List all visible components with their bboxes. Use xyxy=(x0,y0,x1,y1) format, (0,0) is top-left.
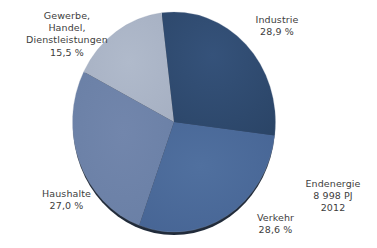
pie-label-industrie: Industrie 28,9 % xyxy=(222,14,332,38)
annotation-title: Endenergie xyxy=(290,178,376,190)
annotation-year: 2012 xyxy=(290,202,376,214)
pie-label-gewerbe-handel-dienstleistungen: Gewerbe, Handel, Dienstleistungen 15,5 % xyxy=(2,10,132,59)
pie-label-gewerbe-percent: 15,5 % xyxy=(2,47,132,59)
pie-label-haushalte-percent: 27,0 % xyxy=(14,200,119,212)
pie-label-verkehr: Verkehr 28,6 % xyxy=(228,212,323,236)
chart-annotation-endenergie: Endenergie 8 998 PJ 2012 xyxy=(290,178,376,215)
pie-label-gewerbe-line3: Dienstleistungen xyxy=(2,34,132,46)
pie-label-haushalte-name: Haushalte xyxy=(14,188,119,200)
pie-label-industrie-percent: 28,9 % xyxy=(222,26,332,38)
pie-chart: Gewerbe, Handel, Dienstleistungen 15,5 %… xyxy=(0,0,377,248)
pie-label-haushalte: Haushalte 27,0 % xyxy=(14,188,119,212)
annotation-total-value: 8 998 PJ xyxy=(290,190,376,202)
pie-label-gewerbe-line2: Handel, xyxy=(2,22,132,34)
pie-label-verkehr-percent: 28,6 % xyxy=(228,224,323,236)
pie-label-gewerbe-line1: Gewerbe, xyxy=(2,10,132,22)
pie-label-industrie-name: Industrie xyxy=(222,14,332,26)
